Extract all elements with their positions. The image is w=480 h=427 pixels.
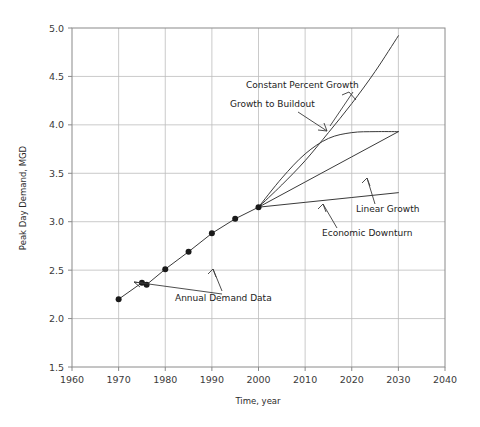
x-tick-label: 1980 <box>153 374 177 385</box>
y-tick-label: 3.0 <box>49 216 64 227</box>
data-point-marker <box>232 216 238 222</box>
y-tick-label: 2.5 <box>49 265 64 276</box>
y-tick-label: 1.5 <box>49 362 64 373</box>
annotation-annual-demand-data: Annual Demand Data <box>175 293 272 303</box>
annotation-economic-downturn: Economic Downturn <box>322 228 412 238</box>
x-tick-label: 2040 <box>433 374 457 385</box>
peak-day-demand-chart: 196019701980199020002010202020302040 1.5… <box>0 0 480 427</box>
y-axis-title: Peak Day Demand, MGD <box>18 145 28 250</box>
y-tick-label: 3.5 <box>49 168 64 179</box>
data-point-marker <box>209 230 215 236</box>
x-tick-label: 2030 <box>386 374 410 385</box>
x-tick-label: 2000 <box>246 374 270 385</box>
annotation-growth-to-buildout: Growth to Buildout <box>230 99 315 109</box>
x-axis-title: Time, year <box>234 396 281 406</box>
chart-container: 196019701980199020002010202020302040 1.5… <box>0 0 480 427</box>
x-tick-label: 1970 <box>107 374 131 385</box>
annotation-constant-percent-growth: Constant Percent Growth <box>246 80 359 90</box>
data-point-marker <box>116 296 122 302</box>
y-tick-label: 2.0 <box>49 313 64 324</box>
x-tick-label: 1990 <box>200 374 224 385</box>
x-axis-tick-labels: 196019701980199020002010202020302040 <box>60 374 457 385</box>
data-point-marker <box>186 249 192 255</box>
x-tick-label: 2020 <box>340 374 364 385</box>
y-tick-label: 4.5 <box>49 71 64 82</box>
data-point-marker <box>162 266 168 272</box>
y-tick-label: 5.0 <box>49 23 64 34</box>
annotation-linear-growth: Linear Growth <box>356 204 419 214</box>
data-point-marker <box>144 282 150 288</box>
data-point-marker <box>256 204 262 210</box>
y-tick-label: 4.0 <box>49 119 64 130</box>
x-tick-label: 1960 <box>60 374 84 385</box>
x-tick-label: 2010 <box>293 374 317 385</box>
